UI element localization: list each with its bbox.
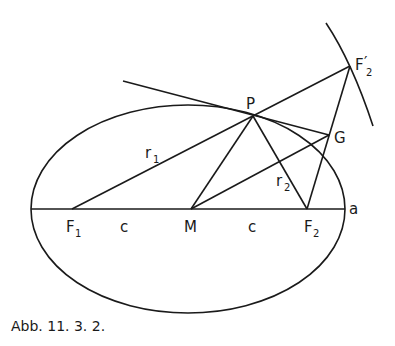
figure-caption: Abb. 11. 3. 2. xyxy=(11,318,105,334)
line-m-to-g xyxy=(191,135,329,209)
diagram-canvas: P G F ′ 2 F 1 c M c F 2 a r 1 r 2 xyxy=(0,0,395,346)
label-m: M xyxy=(184,218,197,236)
label-g: G xyxy=(334,129,346,147)
ellipse-diagram: P G F ′ 2 F 1 c M c F 2 a r 1 r 2 Abb. 1… xyxy=(0,0,395,346)
label-f2prime-sub: 2 xyxy=(366,67,372,78)
label-p: P xyxy=(246,95,255,113)
label-f2prime: F xyxy=(355,56,364,74)
label-a: a xyxy=(349,200,358,218)
label-f1: F xyxy=(66,218,75,236)
label-f2: F xyxy=(304,218,313,236)
label-f1-sub: 1 xyxy=(75,228,81,239)
label-c-left: c xyxy=(120,218,128,236)
label-r2: r xyxy=(276,172,283,190)
line-f1-to-f2prime xyxy=(72,66,350,209)
label-r1-sub: 1 xyxy=(153,154,159,165)
line-p-to-m xyxy=(191,116,253,209)
label-f2-sub: 2 xyxy=(313,228,319,239)
line-r2 xyxy=(253,116,307,209)
label-r2-sub: 2 xyxy=(284,182,290,193)
label-c-right: c xyxy=(248,218,256,236)
label-r1: r xyxy=(145,144,152,162)
